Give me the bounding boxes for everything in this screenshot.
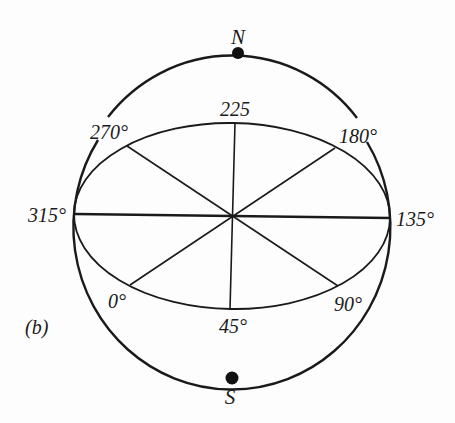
south-pole-dot [226, 372, 239, 385]
label-0: 0° [108, 290, 126, 312]
label-180: 180° [339, 125, 377, 147]
label-90: 90° [334, 293, 362, 315]
south-label: S [225, 385, 236, 409]
north-label: N [230, 25, 246, 49]
sphere-diagram: N S 225 270° 180° 315° 135° 0° 90° 45° (… [0, 0, 455, 423]
label-270: 270° [90, 121, 128, 143]
panel-label: (b) [25, 316, 49, 339]
label-45: 45° [219, 315, 247, 337]
label-135: 135° [396, 208, 434, 230]
label-315: 315° [27, 204, 66, 226]
label-225: 225 [220, 98, 250, 120]
sphere-diagram-svg: N S 225 270° 180° 315° 135° 0° 90° 45° (… [0, 0, 455, 423]
